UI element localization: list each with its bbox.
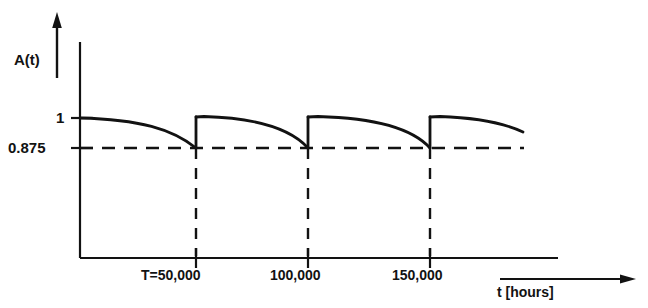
x-tick-label-100000: 100,000 (270, 268, 321, 282)
availability-decay-cycle-1 (80, 118, 196, 148)
x-axis-direction-arrow-head (620, 274, 636, 283)
availability-decay-cycle-4-partial (430, 117, 523, 133)
y-tick-label-1: 1 (56, 110, 64, 125)
chart-plot-area (0, 0, 648, 308)
y-axis-direction-arrow-head (52, 12, 62, 28)
x-tick-label-50000: T=50,000 (141, 268, 201, 282)
x-axis-label: t [hours] (497, 285, 554, 299)
y-axis-label: A(t) (14, 52, 40, 67)
availability-chart: A(t) 1 0.875 T=50,000 100,000 150,000 t … (0, 0, 648, 308)
x-tick-label-150000: 150,000 (392, 268, 443, 282)
availability-decay-cycle-3 (308, 117, 430, 149)
y-tick-label-0875: 0.875 (8, 140, 46, 155)
availability-decay-cycle-2 (196, 117, 308, 149)
